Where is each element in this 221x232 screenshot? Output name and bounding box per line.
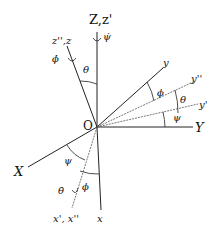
y1-axis-label: y' (198, 99, 207, 110)
theta-arc-y (175, 90, 178, 113)
euler-angle-diagram: Z,z' z'',z ψ̇ ϕ̇ θ y y'' y' Y ϕ θ ψ O X … (0, 0, 221, 232)
theta-label-y: θ (180, 94, 186, 105)
theta-arc-top (80, 81, 97, 84)
x-axis-label: x (97, 213, 103, 224)
theta-label-top: θ (83, 64, 89, 75)
z-axis (67, 46, 97, 127)
psi-dot-label: ψ̇ (103, 31, 111, 42)
psi-arc-y (163, 112, 165, 127)
phi-label-x: ϕ (82, 181, 89, 192)
y-axis-label: y (162, 57, 169, 68)
phi-dot-label: ϕ̇ (52, 53, 59, 64)
phi-arc-y (147, 82, 154, 101)
phi-label-y: ϕ (157, 87, 164, 98)
theta-dot-label: θ̇ (58, 185, 64, 196)
X-axis-label: X (13, 164, 24, 179)
x1-axis-label: x', x'' (53, 213, 79, 224)
psi-label-y: ψ (173, 112, 181, 123)
z-axis-label: z'',z (51, 35, 72, 46)
y1-axis (97, 104, 198, 127)
X-axis (28, 127, 97, 167)
origin-label: O (83, 119, 93, 133)
y2-axis-label: y'' (190, 73, 202, 84)
Y-axis-label: Y (195, 120, 205, 135)
x-axis (97, 127, 101, 210)
Z-axis-label: Z,z' (89, 12, 112, 27)
psi-label-x: ψ (64, 155, 72, 166)
